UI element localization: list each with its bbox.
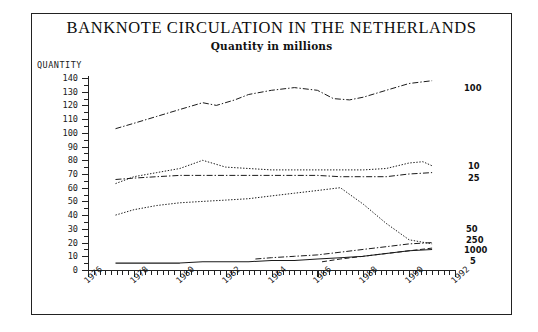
series-label-100: 100 bbox=[464, 83, 481, 93]
series-label-1000: 1000 bbox=[464, 245, 487, 255]
series-line-50 bbox=[116, 188, 433, 244]
series-line-5 bbox=[116, 249, 433, 263]
series-label-5: 5 bbox=[470, 256, 476, 266]
series-line-25 bbox=[116, 173, 433, 180]
series-label-50: 50 bbox=[466, 224, 478, 234]
series-label-250: 250 bbox=[466, 235, 483, 245]
series-label-25: 25 bbox=[468, 173, 480, 183]
series-line-10 bbox=[116, 160, 433, 183]
series-line-100 bbox=[116, 81, 433, 129]
series-label-10: 10 bbox=[468, 161, 480, 171]
series-lines bbox=[0, 0, 538, 332]
chart-screenshot: BANKNOTE CIRCULATION IN THE NETHERLANDS … bbox=[0, 0, 538, 332]
